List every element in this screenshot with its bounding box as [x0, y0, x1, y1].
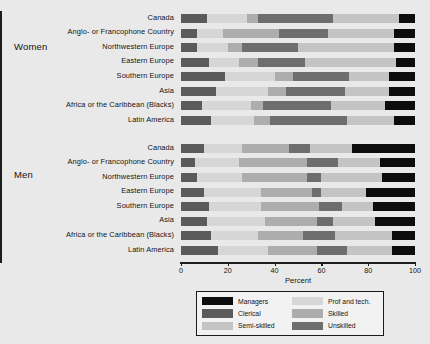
bar-segment-semi-skilled: [349, 72, 389, 81]
bar-segment-skilled: [242, 173, 308, 182]
bar-segment-prof-and-tech: [211, 231, 258, 240]
bar-segment-skilled: [239, 58, 258, 67]
bar-segment-prof-and-tech: [195, 158, 239, 167]
category-label: Canada: [148, 143, 175, 152]
stacked-bar: [181, 101, 415, 110]
bar-segment-managers: [396, 58, 415, 67]
bar-segment-skilled: [261, 188, 312, 197]
bar-segment-clerical: [181, 14, 207, 23]
bar-segment-clerical: [181, 144, 204, 153]
bar-segment-skilled: [261, 202, 320, 211]
category-label: Northwestern Europe: [102, 172, 174, 181]
legend-swatch: [202, 309, 233, 318]
legend-swatch: [202, 322, 233, 331]
legend-swatch: [292, 322, 323, 331]
bar-segment-prof-and-tech: [216, 87, 267, 96]
bar-segment-skilled: [275, 72, 294, 81]
bar-segment-semi-skilled: [321, 173, 382, 182]
stacked-bar: [181, 14, 415, 23]
bar-segment-unskilled: [307, 173, 321, 182]
bar-segment-skilled: [228, 43, 242, 52]
bar-segment-managers: [380, 158, 415, 167]
bar-segment-prof-and-tech: [207, 217, 266, 226]
bar-segment-semi-skilled: [321, 188, 365, 197]
bar-segment-unskilled: [307, 158, 337, 167]
bar-segment-prof-and-tech: [209, 202, 260, 211]
bar-segment-managers: [392, 246, 415, 255]
bar-segment-unskilled: [258, 14, 333, 23]
bar-segment-semi-skilled: [310, 144, 352, 153]
bar-segment-semi-skilled: [328, 29, 394, 38]
bar-segment-clerical: [181, 158, 195, 167]
bar-segment-unskilled: [289, 144, 310, 153]
legend-swatch: [202, 297, 233, 306]
bar-segment-unskilled: [312, 188, 321, 197]
category-label: Asia: [159, 215, 174, 224]
bar-segment-skilled: [265, 217, 316, 226]
x-tick-label: 20: [224, 266, 232, 275]
bar-segment-prof-and-tech: [197, 43, 227, 52]
bar-segment-semi-skilled: [335, 231, 391, 240]
bar-segment-clerical: [181, 116, 211, 125]
bar-segment-prof-and-tech: [207, 14, 247, 23]
bar-segment-prof-and-tech: [211, 116, 253, 125]
category-label: Asia: [159, 86, 174, 95]
bar-segment-unskilled: [317, 217, 333, 226]
legend-swatch: [292, 309, 323, 318]
bar-segment-unskilled: [279, 29, 328, 38]
legend-label: Skilled: [328, 310, 348, 317]
bar-segment-prof-and-tech: [197, 173, 241, 182]
legend-label: Semi-skilled: [238, 322, 275, 329]
bar-segment-prof-and-tech: [225, 72, 274, 81]
bar-segment-clerical: [181, 72, 225, 81]
bar-segment-unskilled: [263, 101, 331, 110]
bar-segment-clerical: [181, 231, 211, 240]
bar-segment-semi-skilled: [333, 217, 375, 226]
category-label: Eastern Europe: [121, 186, 174, 195]
stacked-bar: [181, 173, 415, 182]
bar-segment-skilled: [242, 144, 289, 153]
bar-segment-skilled: [258, 231, 302, 240]
stacked-bar: [181, 116, 415, 125]
bar-segment-clerical: [181, 246, 218, 255]
bar-segment-semi-skilled: [345, 87, 389, 96]
bar-segment-skilled: [251, 101, 263, 110]
category-axis-labels: CanadaAnglo- or Francophone CountryNorth…: [0, 11, 177, 259]
legend-item: Skilled: [292, 307, 378, 319]
bar-segment-unskilled: [303, 231, 336, 240]
category-label: Latin America: [128, 245, 174, 254]
category-label: Anglo- or Francophone Country: [68, 27, 174, 36]
bar-segment-clerical: [181, 202, 209, 211]
x-tick-label: 0: [179, 266, 183, 275]
category-label: Southern Europe: [117, 201, 174, 210]
x-axis-title: Percent: [285, 276, 311, 285]
bar-segment-semi-skilled: [347, 246, 391, 255]
bar-segment-unskilled: [242, 43, 298, 52]
bar-segment-managers: [389, 72, 415, 81]
bar-segment-skilled: [239, 158, 307, 167]
bar-segment-clerical: [181, 87, 216, 96]
bar-segment-managers: [394, 29, 415, 38]
bar-segment-semi-skilled: [333, 14, 399, 23]
stacked-bar: [181, 231, 415, 240]
bar-segment-skilled: [247, 14, 259, 23]
x-axis-line: [180, 262, 416, 264]
bar-segment-managers: [366, 188, 415, 197]
bar-segment-clerical: [181, 101, 202, 110]
legend-item: Unskilled: [292, 320, 378, 332]
bar-segment-unskilled: [317, 246, 347, 255]
bar-segment-managers: [394, 43, 415, 52]
bar-segment-clerical: [181, 29, 197, 38]
bar-segment-semi-skilled: [305, 58, 396, 67]
stacked-bar: [181, 72, 415, 81]
category-label: Eastern Europe: [121, 56, 174, 65]
stacked-bar: [181, 217, 415, 226]
stacked-bar: [181, 188, 415, 197]
category-label: Africa or the Caribbean (Blacks): [66, 230, 174, 239]
bar-segment-unskilled: [270, 116, 347, 125]
stacked-bar: [181, 87, 415, 96]
bar-segment-prof-and-tech: [204, 144, 241, 153]
bars-layer: [181, 11, 415, 259]
bar-segment-skilled: [268, 87, 287, 96]
bar-segment-managers: [382, 173, 415, 182]
